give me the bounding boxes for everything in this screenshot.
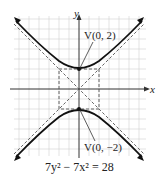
- axes: [10, 17, 148, 158]
- x-axis-label: x: [150, 83, 155, 95]
- leader-line-top: [80, 42, 93, 68]
- curve-arrow-icon: [14, 17, 21, 24]
- cropped-text-fragment: 2: [77, 0, 82, 2]
- vertex-top-label: V(0, 2): [84, 29, 116, 41]
- equation-caption: 7y² − 7x² = 28: [45, 160, 114, 175]
- leader-line-bottom: [80, 110, 95, 141]
- curve-arrow-icon: [14, 154, 21, 161]
- y-axis-label: y: [74, 7, 79, 19]
- curve-arrow-icon: [137, 154, 144, 161]
- vertex-bottom-label: V(0, −2): [84, 141, 122, 153]
- curve-arrow-icon: [137, 17, 144, 24]
- hyperbola-graph: [0, 0, 158, 177]
